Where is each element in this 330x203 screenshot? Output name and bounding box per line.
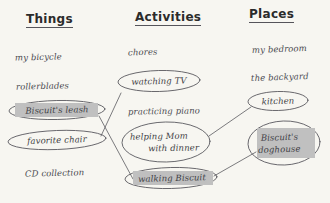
list-item-things-cd-collection: CD collection <box>25 167 84 179</box>
column-header-places: Places <box>249 7 294 23</box>
list-item-activities-watching-tv-label: watching TV <box>131 74 187 88</box>
list-item-things-rollerblades: rollerblades <box>16 80 69 91</box>
list-item-things-biscuits-leash: Biscuit's leash <box>16 102 98 118</box>
list-item-places-biscuits-doghouse: Biscuit's doghouse <box>256 128 317 158</box>
list-item-places-the-backyard: the backyard <box>251 71 309 83</box>
list-item-activities-helping-mom-with-dinner: helping Mom with dinner <box>126 127 206 156</box>
connector-walking-biscuit-doghouse <box>214 152 256 176</box>
list-item-activities-helping-mom-line1: helping Mom <box>126 129 188 142</box>
list-item-places-my-bedroom: my bedroom <box>252 43 307 55</box>
list-item-activities-helping-mom-line2: with dinner <box>126 141 199 155</box>
worksheet-canvas: Things Activities Places my bicycle roll… <box>0 0 330 203</box>
connector-favorite-chair-watching-tv <box>101 93 121 136</box>
list-item-places-biscuits-doghouse-line2: doghouse <box>257 142 302 156</box>
list-item-activities-practicing-piano: practicing piano <box>128 105 200 116</box>
list-item-things-favorite-chair-label: favorite chair <box>27 133 87 147</box>
list-item-activities-walking-biscuit: walking Biscuit <box>132 170 212 186</box>
column-header-things: Things <box>26 12 73 28</box>
list-item-places-kitchen: kitchen <box>254 93 302 108</box>
list-item-things-favorite-chair: favorite chair <box>17 132 97 149</box>
list-item-things-biscuits-leash-label: Biscuit's leash <box>24 103 90 117</box>
connector-helping-mom-kitchen <box>209 107 251 136</box>
list-item-activities-walking-biscuit-label: walking Biscuit <box>137 171 207 185</box>
column-header-activities: Activities <box>135 10 201 26</box>
list-item-things-my-bicycle: my bicycle <box>15 51 62 62</box>
list-item-activities-chores: chores <box>128 47 158 58</box>
list-item-places-kitchen-label: kitchen <box>261 94 294 107</box>
list-item-activities-watching-tv: watching TV <box>122 73 196 89</box>
